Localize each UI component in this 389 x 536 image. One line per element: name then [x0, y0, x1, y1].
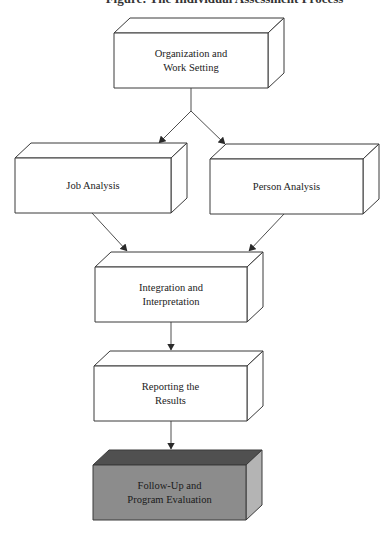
box-label-reporting: Reporting theResults	[94, 366, 247, 421]
box-top-face	[93, 450, 262, 465]
box-label-line: Job Analysis	[66, 179, 119, 193]
box-label-line: Interpretation	[139, 295, 203, 309]
box-label-line: Program Evaluation	[127, 493, 211, 507]
box-top-face	[15, 143, 187, 158]
box-label-follow-up: Follow-Up andProgram Evaluation	[93, 465, 246, 520]
arrow-organization-to-person-analysis	[191, 111, 225, 144]
box-label-line: Person Analysis	[253, 180, 320, 194]
box-label-line: Results	[142, 394, 199, 408]
box-label-job-analysis: Job Analysis	[15, 158, 171, 213]
arrow-job-analysis-to-integration	[92, 213, 127, 251]
box-label-line: Integration and	[139, 281, 203, 295]
box-label-integration: Integration andInterpretation	[95, 267, 247, 322]
arrow-organization-to-job-analysis	[159, 111, 191, 143]
box-label-person-analysis: Person Analysis	[210, 159, 363, 214]
box-top-face	[210, 144, 379, 159]
box-label-line: Work Setting	[155, 61, 227, 75]
box-label-line: Organization and	[155, 47, 227, 61]
box-label-line: Follow-Up and	[127, 479, 211, 493]
box-label-line: Reporting the	[142, 380, 199, 394]
box-label-organization: Organization andWork Setting	[114, 33, 268, 88]
box-top-face	[95, 252, 263, 267]
box-top-face	[94, 351, 263, 366]
box-top-face	[114, 18, 284, 33]
arrow-person-analysis-to-integration	[249, 214, 284, 251]
